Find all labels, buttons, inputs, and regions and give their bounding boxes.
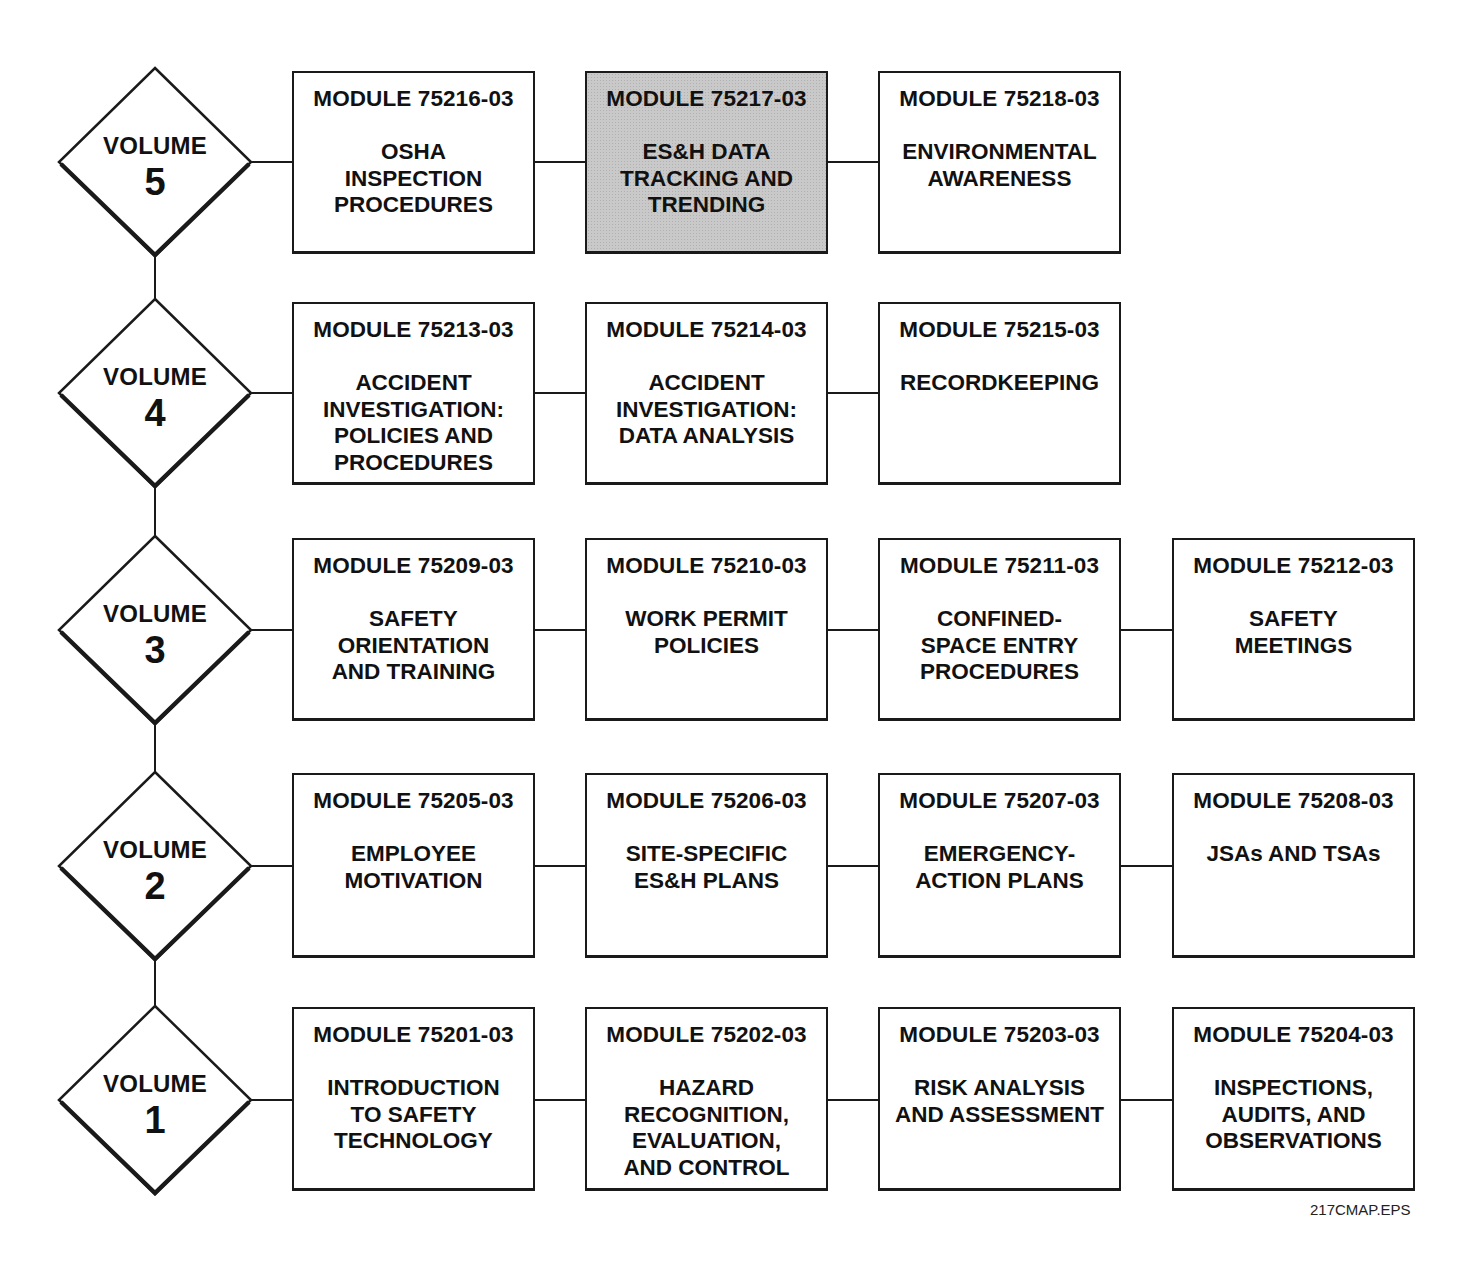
volume-3-diamond: VOLUME3 [57, 534, 253, 726]
volume-number: 2 [57, 866, 253, 906]
module-title: INSPECTIONS, AUDITS, AND OBSERVATIONS [1174, 1075, 1413, 1155]
module-number: MODULE 75202-03 [587, 1022, 826, 1048]
module-box: MODULE 75211-03CONFINED- SPACE ENTRY PRO… [878, 538, 1121, 721]
module-number: MODULE 75206-03 [587, 788, 826, 814]
module-box: MODULE 75209-03SAFETY ORIENTATION AND TR… [292, 538, 535, 721]
module-title: JSAs AND TSAs [1174, 841, 1413, 868]
module-box: MODULE 75204-03INSPECTIONS, AUDITS, AND … [1172, 1007, 1415, 1191]
volume-label: VOLUME [57, 132, 253, 160]
module-box: MODULE 75217-03ES&H DATA TRACKING AND TR… [585, 71, 828, 254]
module-title: SAFETY MEETINGS [1174, 606, 1413, 659]
module-number: MODULE 75216-03 [294, 86, 533, 112]
module-title: OSHA INSPECTION PROCEDURES [294, 139, 533, 219]
module-number: MODULE 75203-03 [880, 1022, 1119, 1048]
module-title: ES&H DATA TRACKING AND TRENDING [587, 139, 826, 219]
file-name-label: 217CMAP.EPS [1310, 1201, 1411, 1218]
volume-number: 3 [57, 630, 253, 670]
module-box: MODULE 75215-03RECORDKEEPING [878, 302, 1121, 485]
module-number: MODULE 75215-03 [880, 317, 1119, 343]
module-title: CONFINED- SPACE ENTRY PROCEDURES [880, 606, 1119, 686]
volume-label: VOLUME [57, 600, 253, 628]
module-box: MODULE 75218-03ENVIRONMENTAL AWARENESS [878, 71, 1121, 254]
module-box: MODULE 75202-03HAZARD RECOGNITION, EVALU… [585, 1007, 828, 1191]
module-box: MODULE 75203-03RISK ANALYSIS AND ASSESSM… [878, 1007, 1121, 1191]
module-box: MODULE 75213-03ACCIDENT INVESTIGATION: P… [292, 302, 535, 485]
module-title: HAZARD RECOGNITION, EVALUATION, AND CONT… [587, 1075, 826, 1181]
module-number: MODULE 75205-03 [294, 788, 533, 814]
volume-1-diamond: VOLUME1 [57, 1004, 253, 1196]
module-title: ENVIRONMENTAL AWARENESS [880, 139, 1119, 192]
module-box: MODULE 75214-03ACCIDENT INVESTIGATION: D… [585, 302, 828, 485]
module-number: MODULE 75212-03 [1174, 553, 1413, 579]
module-title: EMERGENCY- ACTION PLANS [880, 841, 1119, 894]
module-title: ACCIDENT INVESTIGATION: DATA ANALYSIS [587, 370, 826, 450]
module-box: MODULE 75205-03EMPLOYEE MOTIVATION [292, 773, 535, 958]
module-title: EMPLOYEE MOTIVATION [294, 841, 533, 894]
volume-label: VOLUME [57, 1070, 253, 1098]
module-number: MODULE 75209-03 [294, 553, 533, 579]
module-box: MODULE 75210-03WORK PERMIT POLICIES [585, 538, 828, 721]
volume-label: VOLUME [57, 836, 253, 864]
module-number: MODULE 75207-03 [880, 788, 1119, 814]
module-box: MODULE 75206-03SITE-SPECIFIC ES&H PLANS [585, 773, 828, 958]
module-number: MODULE 75201-03 [294, 1022, 533, 1048]
module-number: MODULE 75208-03 [1174, 788, 1413, 814]
module-number: MODULE 75218-03 [880, 86, 1119, 112]
module-title: SAFETY ORIENTATION AND TRAINING [294, 606, 533, 686]
curriculum-map-diagram: VOLUME5MODULE 75216-03OSHA INSPECTION PR… [0, 0, 1468, 1261]
volume-4-diamond: VOLUME4 [57, 297, 253, 489]
module-number: MODULE 75213-03 [294, 317, 533, 343]
volume-5-diamond: VOLUME5 [57, 66, 253, 258]
module-box: MODULE 75208-03JSAs AND TSAs [1172, 773, 1415, 958]
volume-number: 1 [57, 1100, 253, 1140]
module-number: MODULE 75214-03 [587, 317, 826, 343]
volume-number: 4 [57, 393, 253, 433]
module-number: MODULE 75210-03 [587, 553, 826, 579]
module-title: WORK PERMIT POLICIES [587, 606, 826, 659]
volume-label: VOLUME [57, 363, 253, 391]
module-number: MODULE 75217-03 [587, 86, 826, 112]
module-title: ACCIDENT INVESTIGATION: POLICIES AND PRO… [294, 370, 533, 476]
module-title: RISK ANALYSIS AND ASSESSMENT [880, 1075, 1119, 1128]
volume-2-diamond: VOLUME2 [57, 770, 253, 962]
module-title: INTRODUCTION TO SAFETY TECHNOLOGY [294, 1075, 533, 1155]
module-box: MODULE 75216-03OSHA INSPECTION PROCEDURE… [292, 71, 535, 254]
volume-number: 5 [57, 162, 253, 202]
module-title: RECORDKEEPING [880, 370, 1119, 397]
module-number: MODULE 75204-03 [1174, 1022, 1413, 1048]
module-box: MODULE 75212-03SAFETY MEETINGS [1172, 538, 1415, 721]
module-number: MODULE 75211-03 [880, 553, 1119, 579]
module-title: SITE-SPECIFIC ES&H PLANS [587, 841, 826, 894]
module-box: MODULE 75207-03EMERGENCY- ACTION PLANS [878, 773, 1121, 958]
module-box: MODULE 75201-03INTRODUCTION TO SAFETY TE… [292, 1007, 535, 1191]
